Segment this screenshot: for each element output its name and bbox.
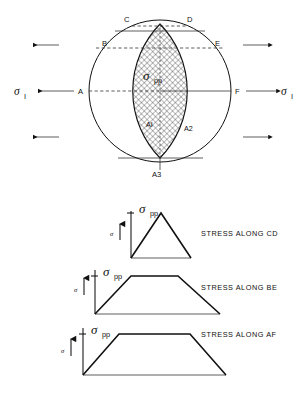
profile-af-curve xyxy=(83,334,226,375)
point-label-d: D xyxy=(187,15,193,24)
point-label-b: B xyxy=(102,39,107,48)
area-label-a1: AI xyxy=(146,120,153,129)
profile-be-peak-symbol: σ xyxy=(103,264,110,279)
profile-cd-peak-subscript: pp xyxy=(150,209,158,218)
profile-af-axis-label: σ xyxy=(61,347,65,354)
profile-cd-group: σ σ pp STRESS ALONG CD xyxy=(110,201,278,258)
point-label-c: C xyxy=(124,15,130,24)
profile-cd-axis-label: σ xyxy=(110,230,114,237)
stress-distribution-figure: σ I σ I σ pp C D B E A F A3 AI A2 xyxy=(0,0,302,393)
profile-be-peak-subscript: pp xyxy=(114,272,122,281)
profile-cd-peak-symbol: σ xyxy=(139,201,146,216)
profile-be-caption: STRESS ALONG BE xyxy=(201,283,277,292)
applied-stress-right-symbol: σ xyxy=(281,85,288,97)
applied-stress-left-subscript: I xyxy=(24,92,26,101)
peak-stress-subscript-lens: pp xyxy=(154,76,162,85)
peak-stress-symbol-lens: σ xyxy=(143,68,150,83)
profile-be-curve xyxy=(95,276,220,314)
circle-diagram-group: σ I σ I σ pp C D B E A F A3 AI A2 xyxy=(14,15,293,179)
profile-af-caption: STRESS ALONG AF xyxy=(201,330,277,339)
figure-root: σ I σ I σ pp C D B E A F A3 AI A2 xyxy=(0,0,302,393)
point-label-a: A xyxy=(78,87,84,96)
profile-af-peak-symbol: σ xyxy=(91,322,98,337)
applied-stress-left-symbol: σ xyxy=(14,85,21,97)
profile-cd-curve xyxy=(131,213,191,258)
point-label-e: E xyxy=(215,39,220,48)
area-label-a2: A2 xyxy=(184,124,193,133)
profile-cd-caption: STRESS ALONG CD xyxy=(201,229,278,238)
point-label-f: F xyxy=(235,87,240,96)
profile-af-peak-subscript: pp xyxy=(102,330,110,339)
profile-af-group: σ σ pp STRESS ALONG AF xyxy=(61,322,277,375)
profile-be-group: σ σ pp STRESS ALONG BE xyxy=(74,264,277,314)
point-label-a3: A3 xyxy=(152,170,161,179)
profile-be-axis-label: σ xyxy=(74,286,78,293)
applied-stress-right-subscript: I xyxy=(291,92,293,101)
